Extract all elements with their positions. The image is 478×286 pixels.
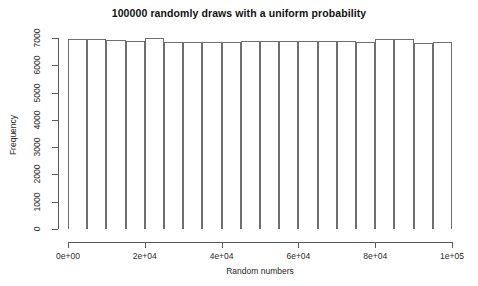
y-axis-title-label: Frequency (8, 115, 18, 155)
x-tick-mark (68, 242, 69, 248)
histogram-bar (337, 41, 356, 229)
x-tick-label: 8e+04 (363, 251, 387, 261)
histogram-bar (356, 42, 375, 229)
histogram-bar (164, 42, 183, 229)
y-tick-label: 1000 (26, 195, 48, 209)
y-tick-mark (52, 65, 58, 66)
y-tick-label: 3000 (26, 140, 48, 154)
x-tick-mark (222, 242, 223, 248)
y-tick-label-text: 1000 (32, 192, 42, 211)
histogram-bar (68, 39, 87, 229)
y-tick-mark (52, 93, 58, 94)
histogram-bar (106, 40, 125, 229)
y-tick-mark (52, 174, 58, 175)
histogram-plot: 100000 randomly draws with a uniform pro… (0, 0, 478, 286)
x-axis-line (68, 242, 452, 243)
histogram-bar (414, 43, 433, 229)
y-tick-mark (52, 38, 58, 39)
x-tick-mark (375, 242, 376, 248)
y-tick-label: 2000 (26, 167, 48, 181)
y-tick-label-text: 7000 (32, 29, 42, 48)
x-tick-mark (145, 242, 146, 248)
x-tick-label: 1e+05 (440, 251, 464, 261)
x-tick-mark (452, 242, 453, 248)
histogram-bar (279, 41, 298, 229)
y-tick-label: 7000 (26, 31, 48, 45)
histogram-bar (202, 42, 221, 229)
y-tick-label-text: 5000 (32, 83, 42, 102)
x-tick-label: 0e+00 (56, 251, 80, 261)
histogram-bar (394, 39, 413, 229)
x-axis-title-label: Random numbers (68, 266, 452, 276)
y-tick-label-text: 3000 (32, 138, 42, 157)
y-tick-label: 4000 (26, 113, 48, 127)
y-tick-mark (52, 120, 58, 121)
y-tick-label: 0 (26, 222, 48, 236)
histogram-bar (145, 38, 164, 229)
histogram-bar (126, 41, 145, 229)
y-tick-label-text: 0 (32, 227, 42, 232)
y-tick-mark (52, 229, 58, 230)
histogram-bar (260, 41, 279, 229)
histogram-bars (68, 38, 452, 229)
y-axis-title: Frequency (6, 95, 20, 175)
y-tick-mark (52, 202, 58, 203)
histogram-bar (298, 41, 317, 229)
x-tick-label: 2e+04 (133, 251, 157, 261)
y-tick-label: 5000 (26, 86, 48, 100)
histogram-bar (87, 39, 106, 229)
y-axis-line (58, 38, 59, 229)
histogram-bar (433, 42, 452, 229)
y-tick-label-text: 4000 (32, 110, 42, 129)
histogram-bar (183, 42, 202, 229)
y-tick-label: 6000 (26, 58, 48, 72)
y-tick-label-text: 2000 (32, 165, 42, 184)
histogram-bar (375, 39, 394, 229)
x-tick-label: 4e+04 (210, 251, 234, 261)
y-tick-mark (52, 147, 58, 148)
x-tick-label: 6e+04 (286, 251, 310, 261)
histogram-bar (241, 41, 260, 229)
x-tick-mark (298, 242, 299, 248)
histogram-bar (318, 41, 337, 229)
chart-title: 100000 randomly draws with a uniform pro… (0, 7, 478, 19)
y-tick-label-text: 6000 (32, 56, 42, 75)
histogram-bar (222, 42, 241, 229)
